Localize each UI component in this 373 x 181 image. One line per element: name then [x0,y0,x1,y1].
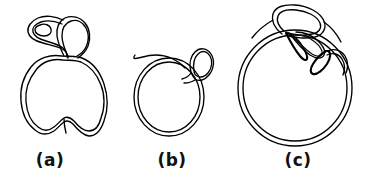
panel-label-b: (b) [142,152,202,169]
panel-b-drawing [134,49,214,136]
figure-container: (a) (b) (c) [0,0,373,181]
panel-b-junction-upper [182,73,191,79]
panel-a-body-inner [26,59,104,131]
panel-c-top-loop-inner [277,10,320,35]
panel-b-circle-outer [134,55,185,68]
panel-label-c: (c) [268,152,328,169]
panel-c-drawing [238,5,352,146]
panel-label-a: (a) [20,152,80,169]
panel-a-eyelet [35,24,51,36]
panel-a-drawing [21,16,107,136]
panel-b-junction-lower [184,80,195,83]
